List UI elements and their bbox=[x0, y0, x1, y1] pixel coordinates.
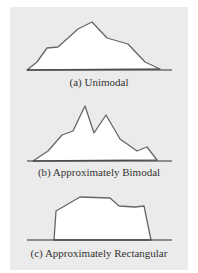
caption-rectangular: (c) Approximately Rectangular bbox=[10, 247, 188, 259]
unimodal-distribution bbox=[27, 22, 172, 70]
distribution-shapes-figure bbox=[0, 0, 198, 273]
rectangular-distribution bbox=[27, 197, 172, 240]
caption-bimodal: (b) Approximately Bimodal bbox=[10, 166, 188, 178]
rectangular-shape bbox=[54, 197, 151, 240]
bimodal-distribution bbox=[27, 106, 172, 161]
bimodal-shape bbox=[33, 106, 157, 161]
caption-unimodal: (a) Unimodal bbox=[10, 76, 188, 88]
unimodal-shape bbox=[27, 22, 160, 70]
